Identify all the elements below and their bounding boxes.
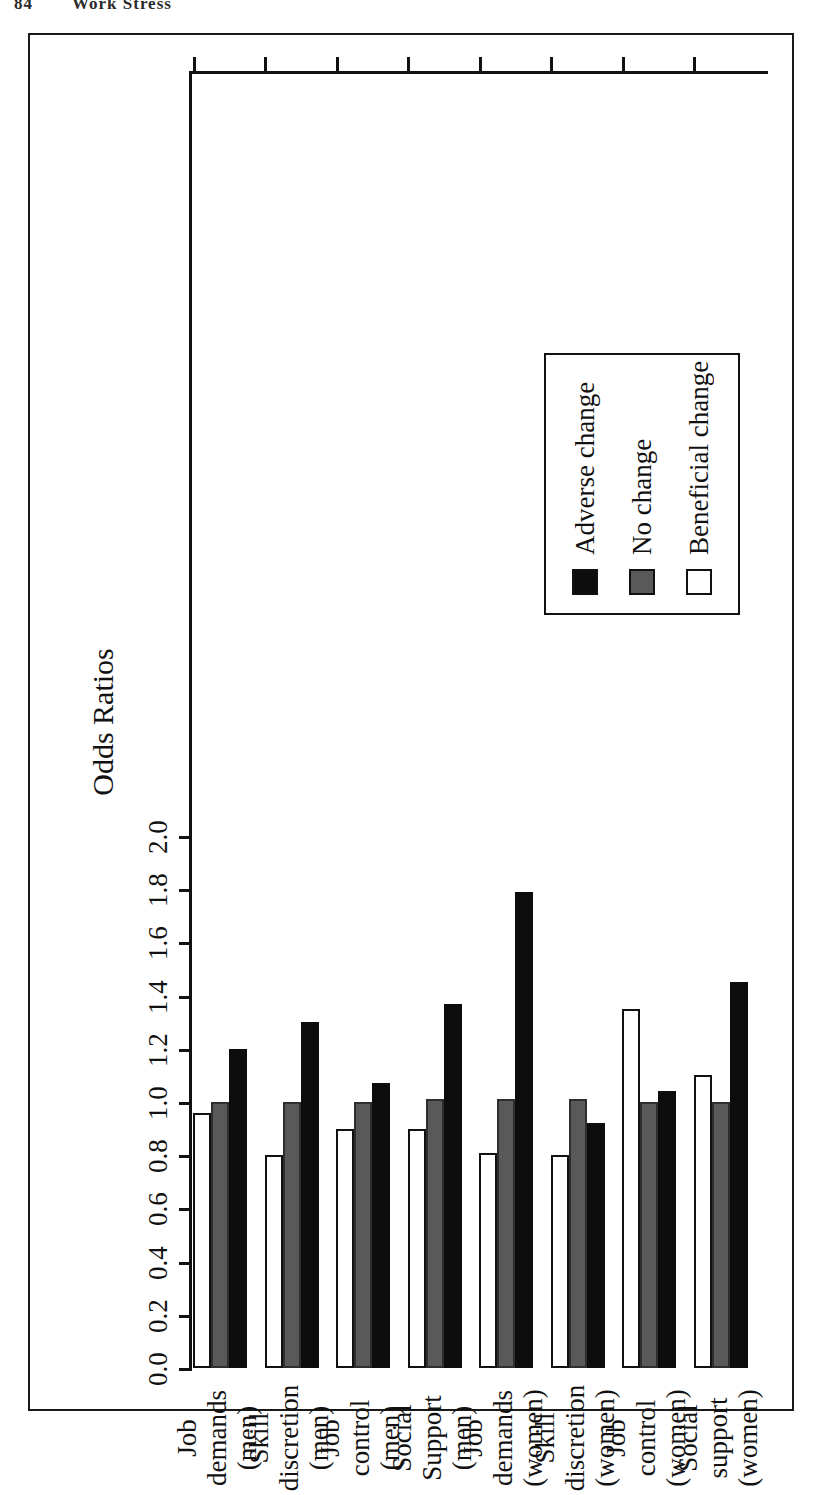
value-tick [179, 1315, 192, 1318]
value-tick-label: 2.0 [143, 807, 174, 867]
bar-adverse [373, 1083, 391, 1368]
category-tick [551, 57, 554, 71]
bar-adverse [516, 892, 534, 1368]
value-tick-label: 0.4 [143, 1233, 174, 1293]
bar-adverse [587, 1123, 605, 1368]
value-tick-label: 1.8 [143, 860, 174, 920]
legend-swatch-beneficial-icon [686, 569, 712, 595]
running-head: 84 Work Stress [14, 0, 514, 16]
value-tick-label: 0.8 [143, 1126, 174, 1186]
bar-nochange [355, 1102, 373, 1368]
value-tick-label: 1.0 [143, 1073, 174, 1133]
legend-item-label: No change [627, 439, 658, 555]
legend-item[interactable]: Beneficial change [684, 371, 715, 595]
legend-item[interactable]: Adverse change [570, 371, 601, 595]
value-tick [179, 942, 192, 945]
category-tick [622, 57, 625, 71]
value-tick-label: 1.6 [143, 913, 174, 973]
bar-beneficial [337, 1129, 355, 1368]
legend-inner: Adverse changeNo changeBeneficial change [546, 355, 738, 613]
value-tick-label: 1.4 [143, 967, 174, 1027]
bar-nochange [498, 1099, 516, 1368]
bar-beneficial [194, 1113, 212, 1368]
bar-nochange [426, 1099, 444, 1368]
running-head-title: Work Stress [72, 0, 172, 13]
rotated-figure-wrapper: Odds Ratios 2.01.81.61.41.21.00.80.60.40… [30, 35, 796, 1409]
value-tick-label: 0.6 [143, 1179, 174, 1239]
bar-nochange [212, 1102, 230, 1368]
legend-item-label: Beneficial change [684, 361, 715, 555]
figure-frame: Odds Ratios 2.01.81.61.41.21.00.80.60.40… [28, 33, 794, 1411]
legend-item[interactable]: No change [627, 371, 658, 595]
category-tick [479, 57, 482, 71]
value-tick [179, 1102, 192, 1105]
value-axis-line [189, 71, 192, 1371]
legend-swatch-adverse-icon [572, 569, 598, 595]
category-axis-line [190, 71, 768, 74]
bar-beneficial [408, 1129, 426, 1368]
bar-chart: Odds Ratios 2.01.81.61.41.21.00.80.60.40… [30, 35, 796, 1409]
value-tick [179, 1049, 192, 1052]
value-tick-label: 0.0 [143, 1339, 174, 1399]
value-tick [179, 836, 192, 839]
value-tick-label: 1.2 [143, 1020, 174, 1080]
bar-nochange [283, 1102, 301, 1368]
value-tick [179, 996, 192, 999]
bar-adverse [444, 1004, 462, 1368]
plot-area: Odds Ratios 2.01.81.61.41.21.00.80.60.40… [30, 35, 796, 1409]
bar-adverse [301, 1022, 319, 1368]
category-tick [265, 57, 268, 71]
bar-beneficial [694, 1075, 712, 1368]
category-tick [336, 57, 339, 71]
value-tick-label: 0.2 [143, 1286, 174, 1346]
bar-nochange [641, 1102, 659, 1368]
bar-nochange [569, 1099, 587, 1368]
bar-beneficial [551, 1155, 569, 1368]
chart-legend: Adverse changeNo changeBeneficial change [544, 353, 740, 615]
category-label: Job demands (men) [173, 1378, 264, 1495]
bar-beneficial [480, 1153, 498, 1368]
category-tick [694, 57, 697, 71]
legend-swatch-nochange-icon [629, 569, 655, 595]
value-axis-title: Odds Ratios [86, 35, 120, 1409]
page-number: 84 [14, 0, 33, 13]
bar-adverse [659, 1091, 677, 1368]
category-tick [408, 57, 411, 71]
value-tick [179, 1262, 192, 1265]
category-tick [193, 57, 196, 71]
bar-adverse [730, 982, 748, 1368]
bar-nochange [712, 1102, 730, 1368]
value-tick [179, 1368, 192, 1371]
bar-beneficial [265, 1155, 283, 1368]
value-tick [179, 1208, 192, 1211]
bar-adverse [230, 1049, 248, 1368]
value-tick [179, 1155, 192, 1158]
legend-item-label: Adverse change [570, 382, 601, 555]
bar-beneficial [623, 1009, 641, 1368]
value-tick [179, 889, 192, 892]
